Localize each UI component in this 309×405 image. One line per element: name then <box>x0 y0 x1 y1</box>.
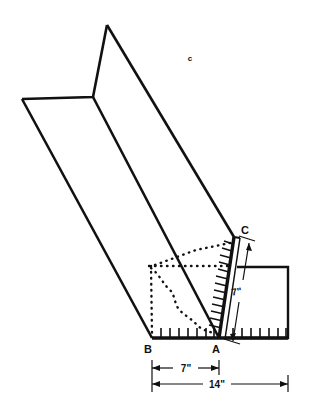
dotted-vertical-left <box>151 266 152 334</box>
dim14-arrow-left <box>152 381 160 387</box>
upper-fold-flange <box>22 25 107 99</box>
dim7-arrow-left <box>152 365 160 371</box>
dim-diagonal-label: 7" <box>230 285 242 298</box>
label-callout-c: c <box>188 54 193 63</box>
edge-lefttip-to-b <box>22 99 152 338</box>
dim-diag-ext-upper <box>239 236 255 241</box>
dim7-arrow-right <box>211 365 219 371</box>
dimension-baseline-7in: 7" <box>152 360 219 375</box>
label-vertex-a: A <box>212 343 220 355</box>
edge-apex-to-c <box>107 25 234 237</box>
dotted-upper-chevron <box>155 243 230 265</box>
dim-baseline-14in-label: 14" <box>209 379 225 390</box>
diagram-canvas: 7" 7" 14" B A C c <box>0 0 309 405</box>
dim14-arrow-right <box>280 381 288 387</box>
dotted-wavy-profile <box>151 268 216 334</box>
technical-diagram: 7" 7" 14" B A C c <box>0 0 309 405</box>
dim-diag-arrow-upper <box>246 243 252 251</box>
label-vertex-b: B <box>144 343 152 355</box>
sheet-body-outline <box>22 25 240 339</box>
dimension-baseline-14in: 14" <box>152 375 288 392</box>
fold-line-junction-to-a <box>93 97 219 338</box>
label-vertex-c: C <box>241 224 249 236</box>
cap-at-c <box>234 237 240 238</box>
dim-baseline-7in-label: 7" <box>181 363 192 374</box>
dimension-diagonal-7in: 7" <box>224 236 255 344</box>
